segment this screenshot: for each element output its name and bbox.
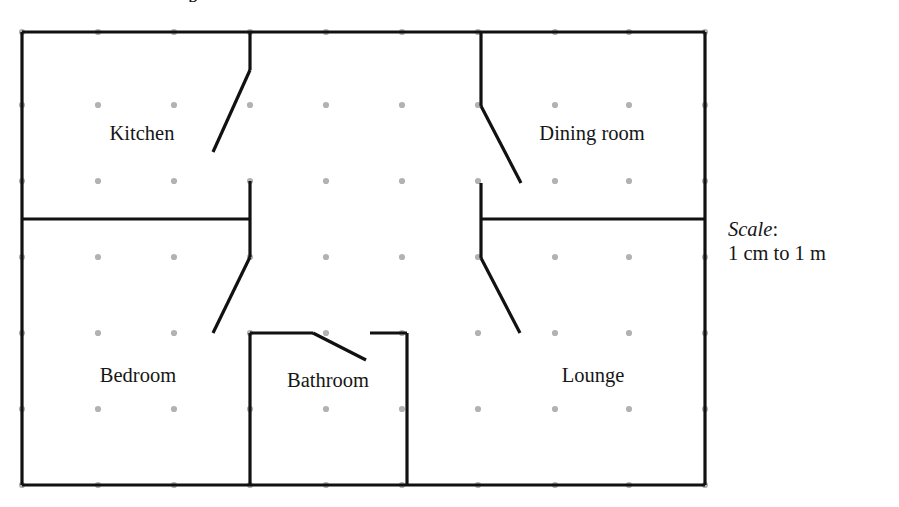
- bedroom-door-swing: [213, 257, 250, 333]
- grid-dot: [626, 330, 632, 336]
- grid-dot: [399, 254, 405, 260]
- grid-dot: [626, 254, 632, 260]
- room-label-lounge: Lounge: [562, 364, 625, 387]
- grid-dot: [95, 178, 101, 184]
- grid-dot: [399, 178, 405, 184]
- scale-value: 1 cm to 1 m: [728, 241, 826, 265]
- grid-dot: [95, 254, 101, 260]
- room-label-bedroom: Bedroom: [100, 364, 176, 386]
- scale-caption: Scale: 1 cm to 1 m: [728, 217, 826, 265]
- grid-dot: [323, 102, 329, 108]
- bathroom-door-swing: [313, 333, 366, 360]
- grid-dot: [626, 178, 632, 184]
- grid-dot: [323, 178, 329, 184]
- grid-dot: [323, 254, 329, 260]
- door-swings-layer: [213, 70, 521, 360]
- grid-dot: [323, 330, 329, 336]
- grid-dot: [171, 406, 177, 412]
- grid-dot: [95, 102, 101, 108]
- scale-word: Scale: [728, 218, 772, 240]
- room-label-bathroom: Bathroom: [287, 369, 369, 391]
- scale-title-line: Scale:: [728, 217, 826, 241]
- grid-dot: [552, 178, 558, 184]
- walls-layer: [22, 32, 705, 485]
- grid-dot: [552, 406, 558, 412]
- grid-dot: [171, 330, 177, 336]
- grid-dot: [95, 406, 101, 412]
- grid-dot: [323, 406, 329, 412]
- room-label-kitchen: Kitchen: [110, 122, 175, 144]
- grid-dot: [626, 102, 632, 108]
- grid-dot: [399, 406, 405, 412]
- grid-dot: [626, 406, 632, 412]
- room-label-dining-room: Dining room: [539, 122, 644, 145]
- grid-dot: [95, 330, 101, 336]
- grid-dot: [552, 330, 558, 336]
- kitchen-door-swing: [213, 70, 250, 152]
- grid-dot: [171, 254, 177, 260]
- lounge-door-swing: [481, 258, 520, 333]
- grid-dot: [475, 330, 481, 336]
- floor-plan-diagram: p KitchenDining roomBedroomBathroomLoung…: [0, 0, 899, 507]
- grid-dot: [171, 102, 177, 108]
- clipped-text-fragment: p: [188, 0, 198, 2]
- grid-dot: [552, 254, 558, 260]
- grid-dots-layer: [19, 29, 708, 488]
- scale-colon: :: [772, 218, 778, 240]
- grid-dot: [247, 102, 253, 108]
- dining-door-swing: [481, 106, 521, 183]
- grid-dot: [552, 102, 558, 108]
- grid-dot: [475, 406, 481, 412]
- grid-dot: [399, 102, 405, 108]
- grid-dot: [171, 178, 177, 184]
- room-labels-layer: KitchenDining roomBedroomBathroomLounge: [100, 122, 645, 391]
